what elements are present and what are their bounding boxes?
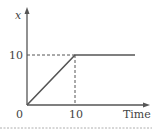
- chart: x 10 0 10 Time: [0, 0, 152, 130]
- x-axis-arrow-icon: [143, 103, 150, 108]
- x-axis-label: Time: [123, 108, 151, 121]
- x-tick-10: 10: [69, 108, 83, 121]
- y-axis-label: x: [15, 9, 22, 22]
- origin-label: 0: [16, 108, 23, 121]
- y-tick-10: 10: [9, 49, 23, 62]
- series-line: [27, 55, 135, 105]
- y-axis-arrow-icon: [25, 7, 30, 14]
